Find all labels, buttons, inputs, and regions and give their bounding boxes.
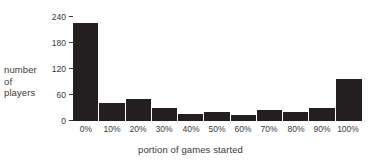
plot-area: [73, 17, 362, 121]
y-axis-tick-240: 240: [40, 11, 73, 23]
y-axis-tick-label-180: 180: [52, 37, 66, 49]
bar-chart-figure: number of players 240 180 120 60 0 0%: [0, 0, 381, 166]
bar-8: [283, 112, 309, 121]
bar-5: [204, 112, 230, 121]
x-axis-tick-label-10: 100%: [322, 124, 374, 135]
bar-7: [257, 110, 283, 121]
y-axis-title-line-2: of: [4, 76, 60, 88]
y-axis-tick-label-60: 60: [57, 89, 66, 101]
bar-0: [73, 23, 99, 121]
bar-2: [126, 99, 152, 121]
bar-3: [152, 108, 178, 121]
y-axis-tick-label-240: 240: [52, 11, 66, 23]
x-axis-title: portion of games started: [0, 144, 381, 155]
bar-6: [231, 115, 257, 122]
bar-4: [178, 114, 204, 121]
bar-10: [336, 79, 362, 121]
y-axis-tick-180: 180: [40, 37, 73, 49]
y-axis-tick-120: 120: [40, 63, 73, 75]
y-axis-tick-60: 60: [40, 89, 73, 101]
bar-1: [99, 103, 125, 121]
y-axis-tick-label-120: 120: [52, 63, 66, 75]
bar-9: [309, 108, 335, 121]
